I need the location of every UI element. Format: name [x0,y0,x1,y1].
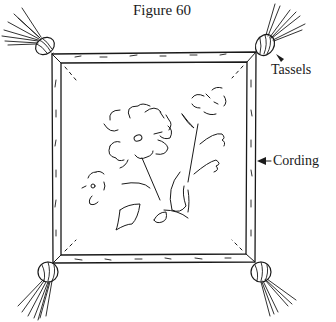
small-flower-top-right [192,87,226,114]
small-flower-left [82,171,105,204]
floral-embroidery [82,87,226,230]
cording-label: Cording [273,154,319,168]
figure-title: Figure 60 [133,3,191,18]
tassel-top-left [2,8,58,58]
large-flower [104,104,172,168]
leaves-and-stems [116,114,225,230]
pillow-frame [52,52,256,263]
stem-main [142,158,160,200]
tassel-top-right [252,4,305,62]
tassel-bottom-left [18,262,58,320]
tassels-label: Tassels [271,63,311,77]
cording-arrow [257,157,271,165]
tassel-bottom-right [251,262,296,316]
